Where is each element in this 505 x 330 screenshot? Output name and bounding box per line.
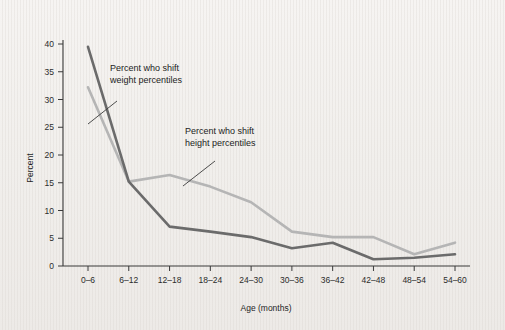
y-axis-tick-label: 10: [45, 206, 55, 216]
x-axis-tick-label: 12–18: [158, 275, 182, 285]
x-axis-tick-label: 0–6: [81, 275, 95, 285]
weight-annotation-line2: weight percentiles: [109, 75, 183, 85]
x-axis-tick-label: 24–30: [239, 275, 263, 285]
y-axis-tick-label: 30: [45, 95, 55, 105]
y-axis-tick-label: 40: [45, 39, 55, 49]
height-annotation-line2: height percentiles: [185, 138, 256, 148]
x-axis-tick-label: 42–48: [362, 275, 386, 285]
x-axis-tick-label: 48–54: [402, 275, 426, 285]
chart-figure: 0510152025303540 0–66–1212–1818–2424–303…: [0, 0, 505, 330]
x-axis-tick-label: 30–36: [280, 275, 304, 285]
line-chart: 0510152025303540 0–66–1212–1818–2424–303…: [0, 0, 505, 330]
x-axis-tick-label: 54–60: [443, 275, 467, 285]
y-axis-tick-label: 25: [45, 122, 55, 132]
y-axis-tick-label: 35: [45, 67, 55, 77]
y-axis-tick-label: 20: [45, 150, 55, 160]
x-axis-title: Age (months): [240, 303, 291, 313]
y-axis-tick-label: 15: [45, 178, 55, 188]
series-line-height-percentiles: [88, 87, 455, 254]
y-axis-ticks: 0510152025303540: [45, 39, 63, 271]
height-annotation-line1: Percent who shift: [185, 126, 255, 136]
weight-annotation-line1: Percent who shift: [110, 63, 180, 73]
y-axis-tick-label: 0: [49, 261, 54, 271]
x-axis-ticks: 0–66–1212–1818–2424–3030–3636–4242–4848–…: [81, 266, 467, 285]
y-axis-title: Percent: [25, 153, 35, 183]
x-axis-tick-label: 18–24: [199, 275, 223, 285]
y-axis-tick-label: 5: [49, 233, 54, 243]
x-axis-tick-label: 36–42: [321, 275, 345, 285]
x-axis-tick-label: 6–12: [119, 275, 138, 285]
